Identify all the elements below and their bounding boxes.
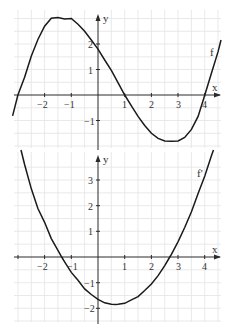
y-tick-label-bottom: 1 [88, 226, 93, 237]
y-tick-label-bottom: 3 [88, 175, 93, 186]
curve-label-f-prime: f' [197, 167, 203, 179]
x-tick-label-bottom: 1 [122, 261, 127, 272]
plot-f-prime: −2 −1 1 2 3 4 3 2 1 −1 −2 x y f' [0, 0, 237, 336]
x-tick-label-bottom: 2 [149, 261, 154, 272]
y-axis-arrow-icon [96, 155, 101, 162]
y-tick-label-bottom: −1 [84, 278, 95, 289]
x-tick-label-bottom: −2 [37, 261, 48, 272]
x-axis-label-bottom: x [212, 243, 218, 255]
curve-f-prime [21, 150, 214, 305]
x-axis-arrow-icon [214, 255, 221, 260]
x-tick-label-bottom: 3 [176, 261, 181, 272]
y-axis-label-bottom: y [103, 153, 109, 165]
grid-bottom [14, 152, 221, 322]
x-tick-label-bottom: −1 [67, 261, 78, 272]
y-tick-label-bottom: 2 [88, 201, 93, 212]
x-tick-label-bottom: 4 [202, 261, 207, 272]
y-tick-label-bottom: −2 [84, 303, 95, 314]
